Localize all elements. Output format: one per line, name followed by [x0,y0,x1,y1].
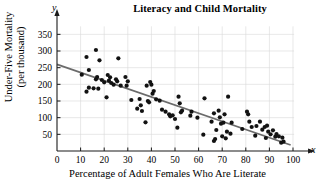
x-tick-label: 30 [123,155,133,165]
data-point [140,109,144,113]
data-point [240,127,244,131]
data-point [195,116,199,120]
x-tick-label: 20 [99,155,109,165]
data-point [250,125,254,129]
x-tick-label: 10 [76,155,86,165]
y-tick-label: 50 [43,130,53,140]
data-point [149,83,153,87]
data-point [108,75,112,79]
data-point [143,120,147,124]
y-tick-label: 250 [38,63,53,73]
data-point [224,136,228,140]
regression-line [57,64,291,145]
y-tick-label: 200 [38,80,53,90]
data-point [254,124,258,128]
data-point [178,101,182,105]
data-point [163,110,167,114]
data-point [112,83,116,87]
data-point [102,80,106,84]
axes [54,9,315,154]
data-point [226,95,230,99]
y-tick-label: 100 [38,113,53,123]
data-point [264,136,268,140]
x-tick-label: 80 [241,155,251,165]
data-point [91,86,95,90]
y-axis-arrow [54,9,59,16]
data-point [126,79,130,83]
data-point [218,115,222,119]
x-tick-label: 40 [147,155,157,165]
trend-line [57,64,291,145]
data-point [84,55,88,59]
x-tick-label: 100 [286,155,301,165]
data-point [176,95,180,99]
x-gridlines [81,26,293,151]
y-tick-label: 350 [38,30,53,40]
data-point [138,97,142,101]
data-point [175,126,179,130]
data-point [145,84,149,88]
y-tick-label: 300 [38,46,53,56]
data-point [220,134,224,138]
plot-area: 0102030405060708090100501001502002503003… [0,0,335,187]
data-point [87,68,91,72]
data-point [116,56,120,60]
data-point [271,128,275,132]
x-tick-label: 70 [217,155,227,165]
data-point [265,124,269,128]
data-point [123,75,127,79]
data-point [222,112,226,116]
data-point [125,84,129,88]
data-point [213,137,217,141]
data-point [119,84,123,88]
data-point [189,110,193,114]
data-point [228,132,232,136]
x-tick-label: 60 [194,155,204,165]
data-point [230,121,234,125]
data-point [115,79,119,83]
data-point [281,140,285,144]
x-tick-label: 50 [170,155,180,165]
data-point [94,48,98,52]
data-point [129,98,133,102]
data-point [180,109,184,113]
data-point [258,120,262,124]
data-point [152,89,156,93]
data-point [280,136,284,140]
data-point [212,111,216,115]
data-points [80,48,286,145]
data-point [209,120,213,124]
tick-labels: 0102030405060708090100501001502002503003… [38,30,301,165]
x-axis-arrow [308,148,315,153]
data-point [202,96,206,100]
data-point [135,107,139,111]
data-point [188,114,192,118]
data-point [171,113,175,117]
data-point [160,108,164,112]
data-point [217,109,221,113]
x-tick-label: 90 [265,155,275,165]
data-point [84,90,88,94]
data-point [104,95,108,99]
y-tick-label: 150 [38,96,53,106]
data-point [246,112,250,116]
data-point [247,120,251,124]
data-point [214,128,218,132]
data-point [225,130,229,134]
data-point [147,100,151,104]
x-tick-label: 0 [55,155,60,165]
data-point [80,73,84,77]
data-point [95,75,99,79]
data-point [173,117,177,121]
data-point [139,103,143,107]
data-point [96,87,100,91]
data-point [158,99,162,103]
data-point [201,133,205,137]
data-point [87,86,91,90]
data-point [221,121,225,125]
data-point [253,134,257,138]
data-point [97,58,101,62]
data-point [268,132,272,136]
literacy-child-mortality-chart: Literacy and Child Mortality y x Under-F… [0,0,335,187]
